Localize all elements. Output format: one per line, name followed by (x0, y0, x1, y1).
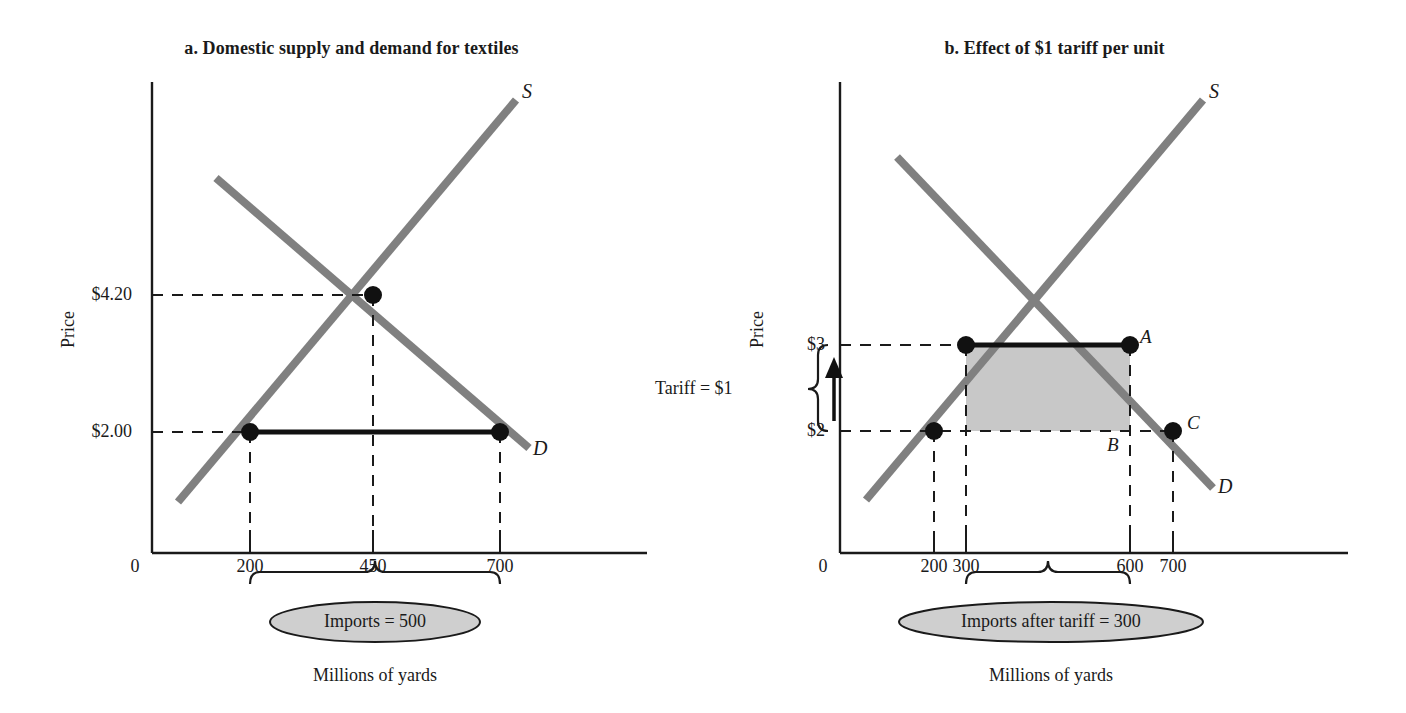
panel-b-demand-label: D (1218, 475, 1232, 498)
panel-a-demand-label: D (533, 437, 547, 460)
point-a (1121, 336, 1139, 354)
point-supply-300 (957, 336, 975, 354)
demand-curve (216, 178, 529, 448)
point-domestic-demand (491, 423, 509, 441)
panel-a-tick-label-200: 200 (220, 556, 280, 577)
point-c (1164, 422, 1182, 440)
panel-b-tariff-label: Tariff = $1 (655, 378, 733, 399)
panel-a-price-label-200: $2.00 (12, 421, 132, 442)
panel-b-x-axis-title: Millions of yards (951, 665, 1151, 686)
panel-a-tick-label-450: 450 (343, 556, 403, 577)
demand-curve (897, 157, 1213, 488)
panel-b-imports-callout-text: Imports after tariff = 300 (901, 611, 1201, 632)
figure-root: a. Domestic supply and demand for textil… (0, 0, 1406, 713)
point-equilibrium (364, 286, 382, 304)
panel-a-origin-label: 0 (115, 556, 155, 577)
panel-a-supply-label: S (522, 80, 532, 103)
panel-a-y-axis-title: Price (58, 311, 79, 348)
panel-b-tick-label-700: 700 (1143, 556, 1203, 577)
panel-b-tick-label-300: 300 (936, 556, 996, 577)
panel-a-tick-label-700: 700 (470, 556, 530, 577)
point-domestic-supply (241, 423, 259, 441)
panel-a-x-axis-title: Millions of yards (275, 665, 475, 686)
panel-b-point-label-a: A (1140, 326, 1152, 348)
panel-a: a. Domestic supply and demand for textil… (0, 0, 703, 713)
tariff-brace (808, 345, 828, 431)
panel-b-point-label-c: C (1187, 412, 1200, 434)
panel-b-origin-label: 0 (803, 556, 843, 577)
panel-a-price-label-420: $4.20 (12, 284, 132, 305)
panel-b-plot (703, 0, 1406, 713)
panel-b-supply-label: S (1209, 80, 1219, 103)
supply-curve (178, 100, 516, 502)
point-supply-200 (925, 422, 943, 440)
panel-a-plot (0, 0, 703, 713)
panel-b-price-label-3: $3 (763, 334, 825, 355)
panel-a-imports-callout-text: Imports = 500 (270, 611, 480, 632)
panel-b-price-label-2: $2 (763, 420, 825, 441)
panel-b: b. Effect of $1 tariff per unit (703, 0, 1406, 713)
panel-b-point-label-b: B (1107, 434, 1119, 456)
